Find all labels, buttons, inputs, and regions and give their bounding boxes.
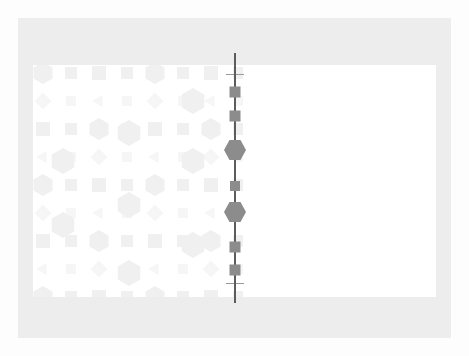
- vertical-axis-line: [234, 53, 236, 303]
- figure-canvas: [0, 0, 469, 356]
- pattern-svg: [33, 65, 243, 297]
- decorative-pattern-field: [33, 65, 243, 297]
